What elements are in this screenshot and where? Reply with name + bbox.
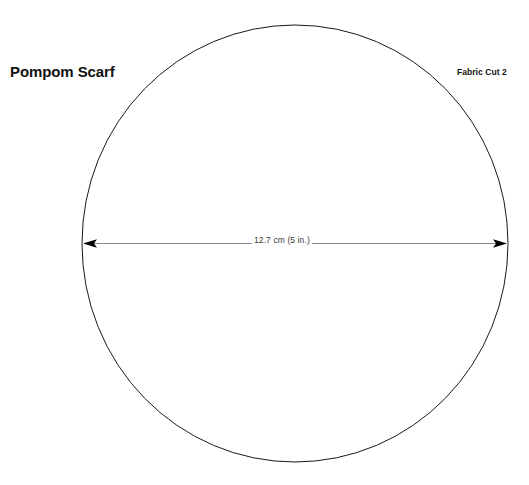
dimension-label: 12.7 cm (5 in.) — [252, 235, 312, 246]
page-title: Pompom Scarf — [10, 63, 115, 80]
pattern-sheet: Pompom Scarf Fabric Cut 2 12.7 cm (5 in.… — [0, 0, 529, 485]
fabric-cut-note: Fabric Cut 2 — [457, 67, 507, 77]
